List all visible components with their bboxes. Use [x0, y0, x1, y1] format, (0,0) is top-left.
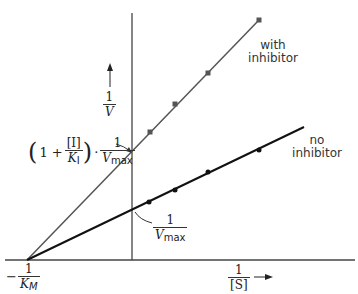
- vmax-den-sub: max: [164, 232, 186, 243]
- formula-v-num: 1: [112, 137, 124, 149]
- inhibitor-intercept-formula: ( 1 + [I] KI ) · 1 Vmax: [28, 137, 135, 167]
- formula-one-plus: 1 +: [39, 145, 62, 160]
- y-axis-label-num: 1: [104, 91, 116, 103]
- km-num: 1: [23, 263, 35, 275]
- formula-open-paren: (: [28, 140, 37, 164]
- formula-i-den-sub: I: [77, 155, 80, 166]
- formula-i-den: KI: [66, 152, 82, 167]
- no-inhibitor-label: no inhibitor: [282, 134, 352, 160]
- km-minus: −: [6, 269, 17, 284]
- no-inhibitor-label-line2: inhibitor: [282, 147, 352, 160]
- km-den-sub: M: [29, 281, 38, 292]
- x-axis-label-num: 1: [233, 264, 245, 276]
- km-intercept-label: 1 KM: [18, 263, 40, 293]
- formula-dot: ·: [94, 145, 98, 160]
- formula-v-fraction: 1 Vmax: [100, 137, 134, 167]
- vmax-den: Vmax: [153, 229, 187, 244]
- with-inhibitor-label: with inhibitor: [238, 39, 308, 65]
- y-axis-label-den: V: [103, 106, 116, 118]
- km-den-k: K: [20, 277, 29, 291]
- y-arrowhead-icon: [107, 63, 113, 71]
- with-inhibitor-label-line2: inhibitor: [238, 52, 308, 65]
- formula-i-num: [I]: [65, 137, 83, 149]
- formula-v-den-v: V: [102, 151, 111, 165]
- formula-i-fraction: [I] KI: [65, 137, 83, 167]
- x-arrowhead-icon: [265, 274, 273, 280]
- x-axis-label-den: [S]: [228, 279, 250, 291]
- vmax-pointer: [135, 212, 152, 223]
- formula-close-paren: ): [83, 140, 92, 164]
- formula-v-den: Vmax: [100, 152, 134, 167]
- vmax-intercept-label: 1 Vmax: [153, 214, 187, 244]
- formula-v-den-sub: max: [111, 155, 133, 166]
- vmax-num: 1: [164, 214, 176, 226]
- x-axis-label: 1 [S]: [228, 264, 250, 291]
- km-den: KM: [18, 278, 40, 293]
- y-axis-label: 1 V: [103, 91, 116, 118]
- vmax-den-v: V: [155, 228, 164, 242]
- formula-i-den-k: K: [68, 151, 77, 165]
